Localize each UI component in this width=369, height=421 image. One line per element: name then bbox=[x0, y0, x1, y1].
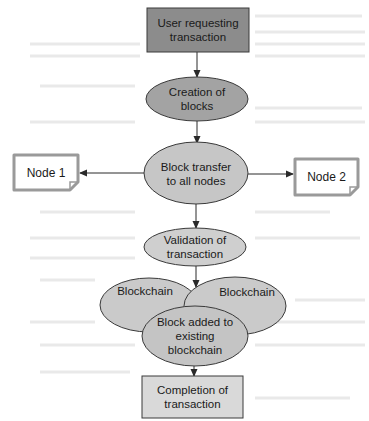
label-blockchain-left: Blockchain bbox=[104, 283, 186, 299]
label-completion: Completion of transaction bbox=[142, 376, 243, 418]
flowchart-canvas: User requesting transaction Creation of … bbox=[0, 0, 369, 421]
label-node-1: Node 1 bbox=[14, 155, 78, 190]
label-node-2: Node 2 bbox=[295, 159, 358, 195]
label-blockchain-right: Blockchain bbox=[212, 284, 282, 300]
label-block-transfer: Block transfer to all nodes bbox=[144, 143, 248, 204]
label-user-requesting-transaction: User requesting transaction bbox=[147, 8, 249, 52]
label-creation-of-blocks: Creation of blocks bbox=[146, 77, 248, 121]
label-validation: Validation of transaction bbox=[144, 228, 246, 266]
label-block-added: Block added to existing blockchain bbox=[142, 307, 248, 365]
